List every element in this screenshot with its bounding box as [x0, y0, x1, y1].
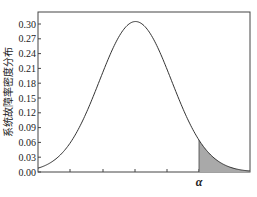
- y-tick-label: 0.06: [19, 137, 37, 148]
- density-curve: [38, 22, 250, 172]
- density-chart: 0.000.030.060.090.120.150.180.210.240.27…: [0, 0, 257, 197]
- y-tick-label: 0.27: [19, 33, 37, 44]
- y-tick-label: 0.24: [19, 48, 37, 59]
- y-tick-label: 0.03: [19, 152, 37, 163]
- y-tick-label: 0.00: [19, 167, 37, 178]
- plot-frame: [38, 12, 250, 172]
- y-axis-label: 系统故障率密度分布: [2, 47, 14, 137]
- y-tick-label: 0.18: [19, 78, 37, 89]
- y-tick-label: 0.30: [19, 19, 37, 30]
- y-tick-label: 0.15: [19, 93, 37, 104]
- y-tick-label: 0.12: [19, 107, 37, 118]
- y-tick-label: 0.09: [19, 122, 37, 133]
- tail-area: [199, 140, 250, 172]
- alpha-annotation: α: [196, 175, 203, 189]
- y-tick-label: 0.21: [19, 63, 37, 74]
